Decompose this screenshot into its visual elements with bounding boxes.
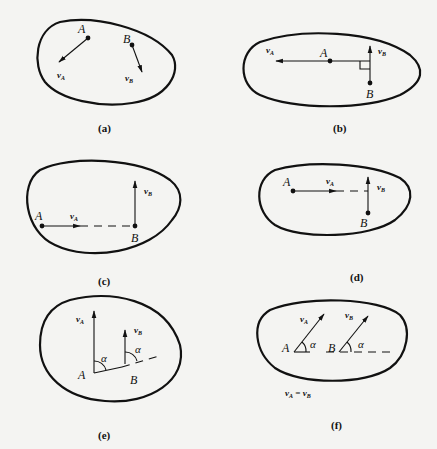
rigid-body-outline <box>27 161 180 253</box>
rigid-body-outline <box>244 33 421 106</box>
panel-d: A vA B vB (d) <box>259 164 410 284</box>
label-b: B <box>366 87 374 101</box>
caption-d: (d) <box>350 271 364 284</box>
right-angle-mark <box>360 61 370 69</box>
panel-c: A vA B vB (c) <box>27 161 180 288</box>
label-b: B <box>131 231 139 245</box>
line-ab <box>94 367 122 373</box>
label-a: A <box>77 22 86 36</box>
label-vb: vB <box>378 46 386 57</box>
label-a: A <box>34 209 43 223</box>
label-alpha-a: α <box>310 338 316 350</box>
label-alpha-b: α <box>135 343 141 355</box>
panel-b: A vA B vB (b) <box>244 33 421 135</box>
equation-va-equals-vb: vA = vB <box>285 388 311 399</box>
label-b: B <box>328 341 336 355</box>
label-va: vA <box>70 211 78 222</box>
angle-arc-b <box>347 342 351 352</box>
label-vb: vB <box>345 310 353 321</box>
label-vb: vB <box>134 325 142 336</box>
label-vb: vB <box>144 186 152 197</box>
label-a: A <box>282 175 291 189</box>
label-b: B <box>123 32 131 46</box>
caption-a: (a) <box>98 122 111 135</box>
label-b: B <box>130 373 138 387</box>
label-va: vA <box>326 176 334 187</box>
caption-b: (b) <box>333 122 347 135</box>
label-a: A <box>281 341 290 355</box>
label-alpha-b: α <box>358 338 364 350</box>
caption-f: (f) <box>331 419 342 432</box>
label-b: B <box>360 216 368 230</box>
rigid-body-velocity-figure: A vA B vB (a) A vA B vB (b) A vA B vB (c… <box>0 0 437 449</box>
label-a: A <box>77 368 86 382</box>
velocity-b-arrow <box>132 45 142 72</box>
label-vb: vB <box>377 182 385 193</box>
label-vb: vB <box>125 73 133 84</box>
velocity-a-arrow <box>59 38 88 62</box>
dashed-line-ab <box>122 355 162 367</box>
label-a: A <box>319 46 328 60</box>
rigid-body-outline <box>37 20 175 104</box>
caption-c: (c) <box>98 275 111 288</box>
rigid-body-outline <box>259 164 410 235</box>
angle-arc-a <box>302 342 306 352</box>
rigid-body-outline <box>40 296 181 401</box>
label-va: vA <box>266 45 274 56</box>
panel-f: α A vA α B vB vA = vB (f) <box>257 300 407 432</box>
label-va: vA <box>76 314 84 325</box>
label-va: vA <box>300 314 308 325</box>
label-alpha-a: α <box>101 352 107 364</box>
velocity-a-arrow <box>294 314 324 352</box>
label-va: vA <box>57 70 65 81</box>
caption-e: (e) <box>98 429 111 442</box>
panel-e: α A vA α B vB (e) <box>40 296 181 442</box>
panel-a: A vA B vB (a) <box>37 20 175 135</box>
